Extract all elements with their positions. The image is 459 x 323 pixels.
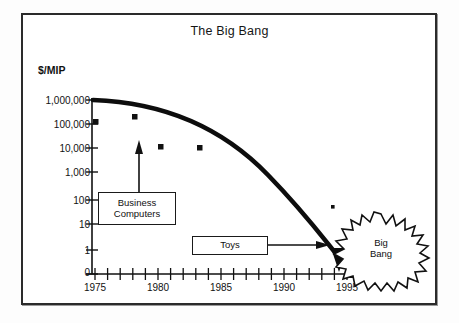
y-axis-tick-labels: 1,000,000 100,000 10,000 1,000 100 10 1 … bbox=[20, 0, 90, 323]
y-tick-label: 0 bbox=[84, 267, 90, 278]
callout-business-computers[interactable]: Business Computers bbox=[98, 192, 176, 225]
y-tick-label: 1,000,000 bbox=[46, 95, 91, 106]
figure-canvas: The Big Bang $/MIP 1,000,000 100,000 10,… bbox=[0, 0, 459, 323]
callout-toys-label: Toys bbox=[220, 240, 240, 251]
y-tick-label: 100 bbox=[73, 195, 90, 206]
callout-toys[interactable]: Toys bbox=[192, 236, 268, 255]
x-tick-label: 1985 bbox=[210, 282, 232, 293]
x-axis-tick-labels: 1975 1980 1985 1990 1995 bbox=[0, 282, 459, 298]
y-tick-label: 1 bbox=[84, 245, 90, 256]
x-tick-label: 1990 bbox=[273, 282, 295, 293]
y-tick-label: 10 bbox=[79, 219, 90, 230]
x-tick-label: 1980 bbox=[147, 282, 169, 293]
x-tick-label: 1975 bbox=[84, 282, 106, 293]
big-bang-line2: Bang bbox=[352, 249, 410, 260]
callout-business-line2: Computers bbox=[114, 209, 160, 220]
big-bang-label: Big Bang bbox=[352, 238, 410, 259]
x-tick-label: 1995 bbox=[336, 282, 358, 293]
y-tick-label: 1,000 bbox=[65, 167, 90, 178]
callout-business-line1: Business bbox=[118, 198, 157, 209]
y-tick-label: 10,000 bbox=[59, 143, 90, 154]
y-tick-label: 100,000 bbox=[54, 119, 90, 130]
